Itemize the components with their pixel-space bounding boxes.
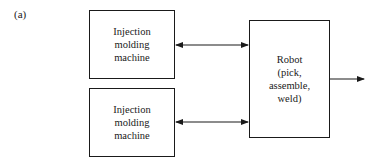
connector-layer (0, 0, 376, 164)
